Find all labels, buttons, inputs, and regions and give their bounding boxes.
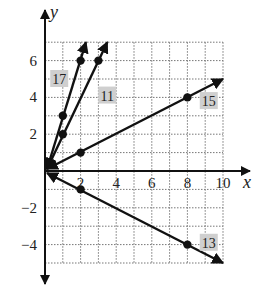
y-tick-label: −2: [21, 200, 37, 216]
y-axis-label: y: [48, 2, 58, 22]
data-point: [59, 130, 67, 138]
grid: [45, 42, 223, 263]
x-tick-label: 6: [148, 175, 156, 191]
line-label-15: 15: [200, 92, 218, 109]
data-point: [76, 56, 84, 64]
x-tick-label: 10: [216, 175, 231, 191]
y-tick-label: 4: [30, 89, 38, 105]
x-tick-label: 8: [184, 175, 192, 191]
series-13: [47, 173, 223, 263]
label-text: 15: [202, 94, 216, 109]
y-tick-label: 2: [30, 126, 38, 142]
data-point: [76, 185, 84, 193]
data-point: [183, 240, 191, 248]
label-text: 13: [202, 236, 216, 251]
line-graph: xy 246810−4−2246 17111513: [0, 0, 265, 296]
series-line: [47, 173, 223, 263]
axes: xy: [45, 2, 251, 284]
x-tick-label: 4: [112, 175, 120, 191]
label-text: 17: [52, 72, 66, 87]
data-point: [59, 112, 67, 120]
label-text: 11: [101, 89, 114, 104]
line-label-11: 11: [98, 87, 116, 104]
line-label-17: 17: [50, 70, 68, 87]
y-tick-label: 6: [30, 53, 38, 69]
data-point: [94, 56, 102, 64]
y-tick-label: −4: [21, 237, 37, 253]
series-line: [47, 79, 223, 169]
line-label-13: 13: [200, 234, 218, 251]
x-axis-label: x: [242, 172, 251, 192]
data-point: [76, 148, 84, 156]
series-15: [47, 79, 223, 169]
data-point: [183, 93, 191, 101]
